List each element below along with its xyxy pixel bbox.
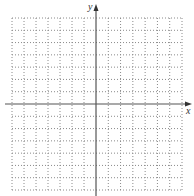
coordinate-grid [0, 0, 194, 196]
y-axis-arrow-icon [94, 4, 99, 11]
y-axis-label: y [88, 2, 92, 12]
x-axis-label: x [186, 106, 190, 116]
